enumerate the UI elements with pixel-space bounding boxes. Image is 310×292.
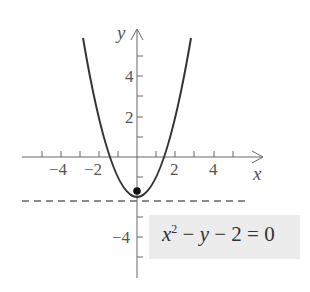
tick-label-x-neg4: −4 [49, 160, 68, 179]
equation-label: x2 − y − 2 = 0 [162, 222, 275, 247]
eq-rest: − 2 = 0 [209, 222, 275, 246]
y-axis-label: y [115, 22, 126, 43]
tick-label-x-2: 2 [170, 160, 179, 179]
tick-label-x-4: 4 [209, 160, 218, 179]
eq-x: x [162, 222, 171, 246]
focus-point [133, 187, 141, 195]
tick-label-y-4: 4 [125, 67, 134, 86]
eq-minus: − [177, 222, 199, 246]
x-axis-label: x [252, 163, 262, 184]
eq-y: y [200, 222, 209, 246]
tick-label-x-neg2: −2 [84, 160, 102, 179]
tick-label-y-2: 2 [125, 108, 134, 127]
plot-area: −4 −2 2 4 4 2 −4 x y [0, 0, 310, 292]
tick-label-y-neg4: −4 [112, 228, 131, 247]
